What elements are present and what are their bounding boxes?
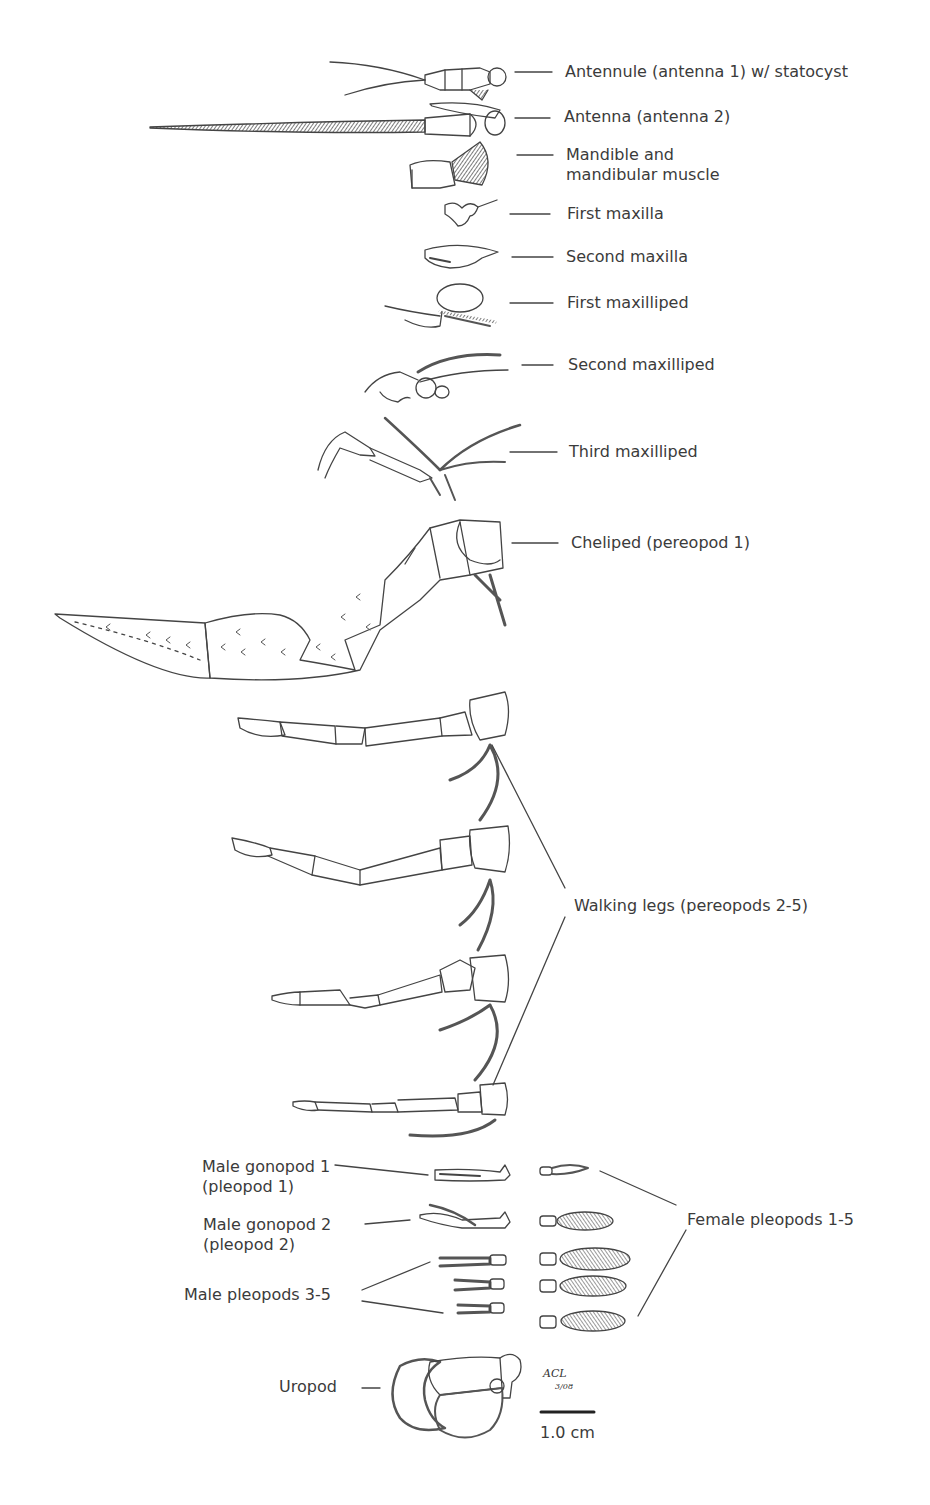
artist-signature: ACL bbox=[543, 1367, 567, 1380]
label-mandible: Mandible and mandibular muscle bbox=[566, 145, 720, 185]
label-male-gonopod-1: Male gonopod 1 (pleopod 1) bbox=[202, 1157, 330, 1197]
scale-bar-label: 1.0 cm bbox=[540, 1423, 595, 1442]
first-maxilla-drawing bbox=[445, 200, 497, 226]
label-third-maxilliped: Third maxilliped bbox=[569, 442, 698, 462]
label-antennule: Antennule (antenna 1) w/ statocyst bbox=[565, 62, 848, 82]
cheliped-drawing bbox=[55, 520, 505, 680]
label-female-pleopods: Female pleopods 1-5 bbox=[687, 1210, 854, 1230]
female-pleopod-4-drawing bbox=[540, 1276, 626, 1296]
label-antenna: Antenna (antenna 2) bbox=[564, 107, 730, 127]
signature-date: 3/08 bbox=[555, 1382, 573, 1391]
label-male-gonopod-2: Male gonopod 2 (pleopod 2) bbox=[203, 1215, 331, 1255]
label-first-maxilla: First maxilla bbox=[567, 204, 664, 224]
label-cheliped: Cheliped (pereopod 1) bbox=[571, 533, 750, 553]
label-uropod: Uropod bbox=[279, 1377, 337, 1397]
third-maxilliped-drawing bbox=[318, 418, 520, 500]
leader-lines bbox=[335, 72, 686, 1388]
male-pleopod-4-drawing bbox=[455, 1279, 504, 1290]
male-pleopod-5-drawing bbox=[458, 1303, 504, 1313]
antennule-drawing bbox=[330, 62, 506, 100]
walking-leg-3-drawing bbox=[232, 826, 509, 950]
female-pleopod-2-drawing bbox=[540, 1212, 613, 1230]
male-gonopod-1-drawing bbox=[435, 1165, 510, 1181]
crayfish-appendages-illustration bbox=[0, 0, 930, 1505]
male-pleopod-3-drawing bbox=[440, 1255, 506, 1266]
label-male-pleopods: Male pleopods 3-5 bbox=[184, 1285, 331, 1305]
uropod-drawing bbox=[393, 1354, 522, 1437]
female-pleopod-1-drawing bbox=[540, 1165, 588, 1175]
second-maxilliped-drawing bbox=[365, 355, 508, 402]
label-walking-legs: Walking legs (pereopods 2-5) bbox=[574, 896, 808, 916]
second-maxilla-drawing bbox=[425, 245, 498, 268]
label-first-maxilliped: First maxilliped bbox=[567, 293, 689, 313]
label-second-maxilliped: Second maxilliped bbox=[568, 355, 715, 375]
mandible-drawing bbox=[410, 142, 488, 188]
antenna-drawing bbox=[150, 103, 505, 136]
female-pleopod-3-drawing bbox=[540, 1248, 630, 1270]
walking-leg-5-drawing bbox=[293, 1083, 508, 1136]
female-pleopod-5-drawing bbox=[540, 1311, 625, 1331]
first-maxilliped-drawing bbox=[385, 284, 495, 327]
walking-leg-4-drawing bbox=[272, 955, 509, 1080]
male-gonopod-2-drawing bbox=[420, 1205, 510, 1228]
walking-leg-2-drawing bbox=[238, 692, 509, 820]
label-second-maxilla: Second maxilla bbox=[566, 247, 688, 267]
